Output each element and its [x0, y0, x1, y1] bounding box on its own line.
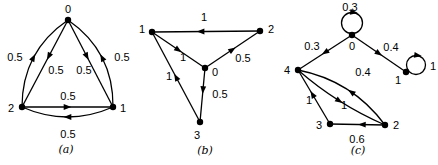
edge-weight-0-3: 0.5 — [212, 88, 227, 100]
loop-weight-0: 0.3 — [342, 1, 357, 13]
node-label-b-1: 1 — [139, 23, 145, 35]
node-c-1 — [403, 69, 409, 75]
edge-weight-4-2: 1 — [341, 99, 347, 111]
node-c-4 — [295, 67, 301, 73]
self-loop-1 — [407, 56, 426, 75]
node-b-2 — [257, 28, 263, 34]
node-label-c-2: 2 — [393, 119, 399, 131]
edge-weight-0-1: 0.5 — [76, 64, 91, 76]
node-label-c-1: 1 — [395, 74, 401, 86]
node-label-c-4: 4 — [284, 64, 290, 76]
edge-0-to-3 — [200, 68, 205, 122]
node-a-0 — [65, 17, 71, 23]
edge-weight-0-4: 0.3 — [304, 40, 319, 52]
edge-2-to-1 — [152, 31, 260, 32]
node-a-1 — [110, 104, 116, 110]
graph-a: 0.50.50.50.50.50.5021(a) — [7, 3, 129, 156]
node-label-c-3: 3 — [316, 119, 322, 131]
node-label-c-0: 0 — [349, 40, 355, 52]
node-b-0 — [202, 65, 208, 71]
arrowhead-icon — [322, 48, 330, 55]
node-label-a-2: 2 — [8, 102, 14, 114]
arrowhead-icon — [358, 122, 366, 128]
edge-weight-2-1: 1 — [201, 11, 207, 23]
arrowhead-icon — [29, 54, 35, 62]
graph-caption-b: (b) — [197, 144, 213, 157]
node-label-b-0: 0 — [212, 66, 218, 78]
arrowhead-icon — [174, 74, 180, 82]
edge-2-to-3 — [330, 124, 385, 125]
edge-weight-2-0: 0.5 — [7, 51, 22, 63]
edge-weight-1-2: 0.5 — [60, 128, 75, 140]
edge-weight-2-4: 0.4 — [355, 66, 370, 78]
node-b-1 — [149, 29, 155, 35]
arrowhead-icon — [47, 52, 53, 60]
edge-weight-0-1: 0.4 — [383, 41, 398, 53]
node-c-0 — [349, 32, 355, 38]
graph-caption-c: (c) — [351, 144, 366, 157]
self-loop-0 — [342, 13, 363, 34]
loop-weight-1: 1 — [430, 60, 436, 72]
node-b-3 — [197, 119, 203, 125]
arrowhead-icon — [64, 114, 72, 120]
edge-weight-0-2: 0.5 — [235, 52, 250, 64]
arrowhead-icon — [83, 52, 89, 60]
arrowhead-icon — [64, 104, 72, 110]
graph-c: 0.30.40.4110.60.3104132(c) — [284, 1, 436, 157]
arrowhead-icon — [374, 49, 382, 56]
arrowhead-icon — [348, 90, 356, 97]
graph-caption-a: (a) — [58, 143, 73, 156]
edge-weight-3-4: 1 — [306, 94, 312, 106]
arrowhead-icon — [100, 54, 106, 62]
node-a-2 — [19, 104, 25, 110]
edge-weight-1-0: 1 — [180, 51, 186, 63]
node-c-2 — [382, 122, 388, 128]
arrowhead-icon — [197, 29, 205, 35]
node-label-a-0: 0 — [65, 3, 71, 15]
node-label-a-1: 1 — [120, 102, 126, 114]
node-label-b-2: 2 — [268, 23, 274, 35]
edge-weight-0-2: 0.5 — [48, 64, 63, 76]
edge-weight-2-1: 0.5 — [60, 90, 75, 102]
graph-b: 110.50.511203(b) — [139, 11, 274, 157]
graphs-canvas: 0.50.50.50.50.50.5021(a)110.50.511203(b)… — [0, 0, 438, 165]
node-label-b-3: 3 — [194, 129, 200, 141]
node-c-3 — [327, 121, 333, 127]
edge-weight-3-1: 1 — [166, 70, 172, 82]
edge-weight-1-0: 0.5 — [114, 51, 129, 63]
transition-diagrams-figure: 0.50.50.50.50.50.5021(a)110.50.511203(b)… — [0, 0, 438, 165]
edge-1-to-2 — [22, 107, 113, 117]
